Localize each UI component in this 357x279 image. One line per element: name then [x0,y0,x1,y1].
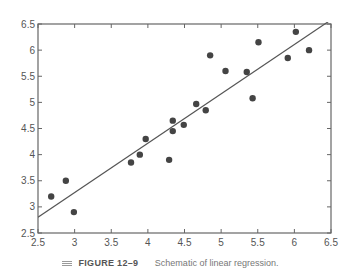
data-point [71,209,77,215]
figure-label: FIGURE 12–9 [79,258,139,268]
y-tick-label: 5 [29,97,35,108]
x-tick-label: 4 [145,237,151,248]
data-point [181,122,187,128]
x-tick-label: 6 [292,237,298,248]
y-tick-label: 5.5 [21,71,35,82]
y-tick-label: 3 [29,201,35,212]
y-tick-label: 4 [29,149,35,160]
x-tick-label: 5.5 [251,237,265,248]
data-point [63,178,69,184]
x-tick-label: 3 [72,237,78,248]
x-tick-label: 6.5 [324,237,338,248]
x-tick-label: 3.5 [104,237,118,248]
data-point [166,157,172,163]
data-point [222,68,228,74]
y-tick-label: 2.5 [21,228,35,239]
data-point [142,136,148,142]
data-point [137,151,143,157]
data-point [285,55,291,61]
data-point [293,29,299,35]
data-point [48,193,54,199]
data-point [128,159,134,165]
data-point [170,117,176,123]
x-tick-label: 2.5 [31,237,45,248]
y-tick-label: 4.5 [21,123,35,134]
data-point [203,107,209,113]
data-point [170,128,176,134]
scatter-chart: 2.533.544.555.566.52.533.544.555.566.5 [0,0,357,279]
regression-line [38,20,331,218]
data-point [255,39,261,45]
figure-caption: FIGURE 12–9 Schematic of linear regressi… [62,258,278,268]
data-point [244,69,250,75]
y-tick-label: 6 [29,45,35,56]
y-tick-label: 6.5 [21,19,35,30]
x-tick-label: 5 [218,237,224,248]
data-point [306,47,312,53]
data-point [249,95,255,101]
y-tick-label: 3.5 [21,175,35,186]
x-tick-label: 4.5 [178,237,192,248]
data-point [193,101,199,107]
data-point [207,52,213,58]
figure-caption-text: Schematic of linear regression. [155,258,279,268]
figure-marker-icon [62,261,72,267]
